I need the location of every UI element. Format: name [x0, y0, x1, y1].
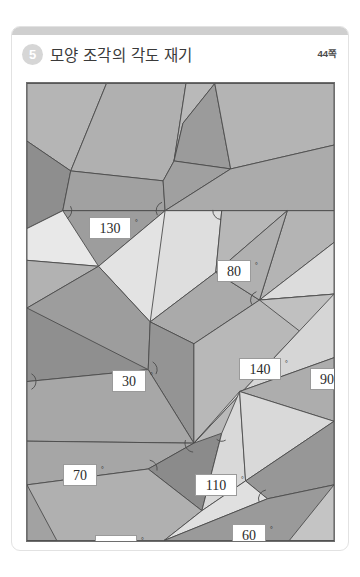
angle-value-box[interactable]: 140: [239, 358, 281, 380]
degree-symbol: °: [270, 526, 273, 533]
section-number-badge: 5: [22, 44, 43, 65]
degree-symbol: °: [150, 372, 153, 379]
card-top-accent-bar: [12, 27, 348, 35]
lesson-card: 5 모양 조각의 각도 재기 44쪽 130°80°30°140°90°70°1…: [11, 26, 349, 551]
angle-value-box[interactable]: 70: [63, 464, 97, 486]
angle-value-box[interactable]: 110: [195, 474, 237, 496]
angle-value-box[interactable]: 60: [232, 524, 266, 542]
page-root: 5 모양 조각의 각도 재기 44쪽 130°80°30°140°90°70°1…: [0, 0, 360, 577]
angle-value-box[interactable]: 100: [95, 535, 137, 542]
angle-value-box[interactable]: 80: [217, 260, 251, 282]
card-header: 5 모양 조각의 각도 재기 44쪽: [12, 35, 348, 75]
degree-symbol: °: [141, 537, 144, 542]
angle-value-box[interactable]: 30: [112, 370, 146, 392]
tessellation-figure: 130°80°30°140°90°70°110°100°60°105°: [26, 82, 335, 542]
angle-value-box[interactable]: 90: [310, 368, 335, 390]
degree-symbol: °: [101, 466, 104, 473]
degree-symbol: °: [241, 476, 244, 483]
degree-symbol: °: [135, 219, 138, 226]
degree-symbol: °: [255, 262, 258, 269]
angle-value-box[interactable]: 130: [89, 217, 131, 239]
page-reference: 44쪽: [317, 46, 337, 60]
degree-symbol: °: [285, 360, 288, 367]
page-title: 모양 조각의 각도 재기: [50, 43, 192, 65]
